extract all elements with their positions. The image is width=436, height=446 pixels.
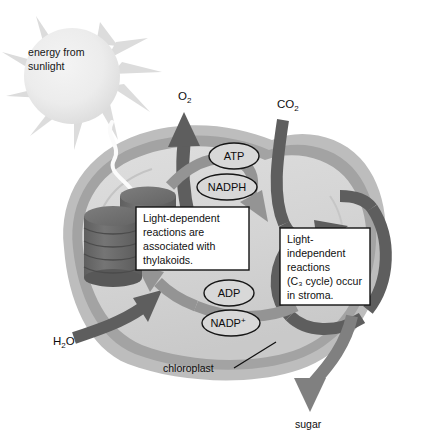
svg-text:NADP+: NADP+ (210, 316, 246, 329)
svg-text:H2O: H2O (53, 335, 75, 350)
label-carbon-dioxide-main: CO (277, 98, 294, 110)
label-sugar-text: sugar (295, 418, 322, 430)
callout-left-line-1: Light-dependent (143, 212, 220, 224)
chloroplast-label: chloroplast (163, 362, 214, 374)
molecule-nadp-plus-label: NADP (210, 317, 241, 329)
light-independent-callout: Light- independent reactions (C₃ cycle) … (280, 228, 370, 305)
callout-right-line-1: Light- (287, 233, 314, 245)
sun-disc (24, 28, 120, 124)
callout-left-line-4: thylakoids. (143, 254, 193, 266)
callout-right-line-5: in stroma. (287, 289, 334, 301)
molecule-nadp-plus-sup: + (241, 316, 246, 325)
label-carbon-dioxide-sub: 2 (294, 104, 299, 113)
label-water-tail: O (66, 335, 75, 347)
label-oxygen-sub: 2 (187, 96, 192, 105)
label-carbon-dioxide: CO2 (277, 98, 299, 113)
molecule-nadp-plus[interactable]: NADP+ (202, 310, 260, 336)
sun-label-line2: sunlight (28, 60, 65, 72)
photosynthesis-diagram: energy from sunlight (0, 0, 436, 446)
molecule-adp[interactable]: ADP (204, 280, 254, 306)
callout-right-line-2: independent (287, 247, 345, 259)
molecule-nadph-label: NADPH (208, 181, 247, 193)
callout-left-line-2: reactions are (143, 226, 204, 238)
label-water-main: H (53, 335, 61, 347)
molecule-nadph[interactable]: NADPH (197, 174, 257, 200)
svg-text:CO2: CO2 (277, 98, 299, 113)
svg-text:O2: O2 (178, 90, 192, 105)
label-oxygen-main: O (178, 90, 187, 102)
molecule-atp-label: ATP (224, 150, 245, 162)
label-sugar: sugar (295, 418, 322, 430)
callout-right-line-4: (C₃ cycle) occur (287, 275, 362, 287)
molecule-adp-label: ADP (218, 287, 241, 299)
callout-right-line-3: reactions (287, 261, 330, 273)
label-oxygen: O2 (178, 90, 192, 105)
sun-label-line1: energy from (28, 46, 85, 58)
callout-left-line-3: associated with (143, 240, 216, 252)
light-dependent-callout: Light-dependent reactions are associated… (136, 207, 249, 270)
thylakoid-granum-left (84, 206, 142, 287)
sun-icon: energy from sunlight (2, 16, 162, 150)
label-water: H2O (53, 335, 75, 350)
diagram-canvas: energy from sunlight (0, 0, 436, 446)
molecule-atp[interactable]: ATP (209, 143, 259, 169)
